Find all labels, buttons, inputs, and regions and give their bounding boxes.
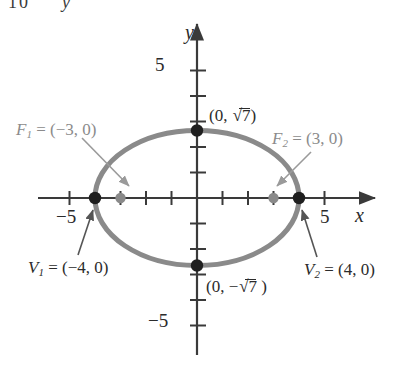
x-tick-label-5: 5 — [320, 207, 330, 226]
label-vertex-v2: V2 = (4, 0) — [304, 261, 375, 280]
point-focus-f2 — [268, 193, 278, 203]
x-axis-label: x — [355, 205, 364, 225]
radical-overbar-top — [239, 108, 250, 109]
label-focus-f1-var: F — [16, 120, 26, 139]
leader-line-f1 — [82, 138, 129, 186]
radical-top: √7 — [232, 107, 251, 124]
label-covertex-bottom-post: ) — [257, 277, 267, 296]
figure-canvas: 10 y — [0, 0, 413, 378]
label-focus-f1: F1 = (−3, 0) — [16, 121, 96, 140]
label-vertex-v1: V1 = (−4, 0) — [28, 259, 108, 278]
label-focus-f2-eq: = (3, 0) — [288, 129, 343, 148]
label-covertex-top-post: ) — [251, 106, 257, 125]
leader-line-v2 — [302, 210, 317, 257]
label-covertex-top: (0, √7) — [209, 107, 256, 124]
label-covertex-bottom: (0, −√7 ) — [206, 278, 267, 295]
label-covertex-bottom-pre: (0, − — [206, 277, 238, 296]
x-tick-label-neg5: −5 — [56, 207, 76, 226]
label-covertex-top-pre: (0, — [209, 106, 232, 125]
label-focus-f1-eq: = (−3, 0) — [32, 120, 97, 139]
radical-bottom: √7 — [238, 278, 257, 295]
y-axis-label: y — [185, 22, 194, 42]
ellipse-diagram-svg — [0, 0, 413, 378]
label-focus-f2: F2 = (3, 0) — [272, 130, 343, 149]
label-vertex-v1-eq: = (−4, 0) — [44, 258, 109, 277]
leader-line-v1 — [78, 210, 93, 255]
label-vertex-v2-var: V — [304, 260, 314, 279]
point-vertex-v1 — [89, 192, 101, 204]
point-covertex-top — [191, 124, 203, 136]
label-vertex-v2-eq: = (4, 0) — [320, 260, 375, 279]
label-focus-f2-var: F — [272, 129, 282, 148]
label-vertex-v1-var: V — [28, 258, 38, 277]
point-focus-f1 — [115, 193, 125, 203]
radical-overbar-bottom — [245, 279, 256, 280]
point-covertex-bottom — [191, 259, 203, 271]
y-tick-label-neg5: −5 — [148, 311, 168, 330]
y-tick-label-5: 5 — [155, 55, 165, 74]
point-vertex-v2 — [293, 192, 305, 204]
